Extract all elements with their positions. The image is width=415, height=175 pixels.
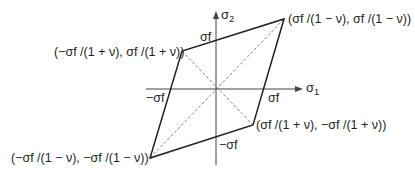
sigma1-axis-label: σ1: [306, 81, 319, 99]
intercept-pos-x: σf: [268, 91, 279, 105]
intercept-pos-y: σf: [200, 30, 211, 44]
vertex-label-top-right: (σf /(1 − ν), σf /(1 − ν)): [288, 12, 411, 26]
vertex-label-lower-right: (σf /(1 + ν), −σf /(1 + ν)): [256, 118, 386, 132]
intercept-neg-x: −σf: [146, 91, 165, 105]
intercept-neg-y: −σf: [219, 138, 238, 152]
sigma2-arrowhead-icon: [213, 11, 219, 19]
sigma1-arrowhead-icon: [295, 86, 303, 92]
failure-envelope-diagram: [0, 0, 415, 175]
vertex-label-bottom-left: (−σf /(1 − ν), −σf /(1 − ν)): [11, 151, 149, 165]
vertex-label-upper-left: (−σf /(1 + ν), σf /(1 + ν)): [54, 45, 184, 59]
sigma2-axis-label: σ2: [221, 8, 234, 26]
